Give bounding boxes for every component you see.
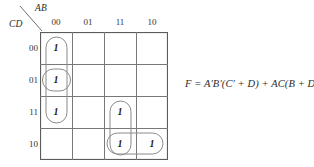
cell-value: 1: [136, 128, 168, 160]
column-header-row: 00 01 11 10: [40, 17, 168, 31]
side-variable-label: CD: [9, 19, 23, 29]
column-header-3: 10: [136, 17, 168, 27]
row-header-0: 00: [14, 32, 38, 64]
row-header-column: 00 01 11 10: [14, 32, 38, 160]
row-header-2: 11: [14, 96, 38, 128]
karnaugh-map-figure: AB CD 00 01 11 10 00 01 11 10 1 1 1 1 1 …: [0, 0, 314, 167]
column-header-1: 01: [72, 17, 104, 27]
column-header-2: 11: [104, 17, 136, 27]
row-header-3: 10: [14, 128, 38, 160]
cell-value: 1: [104, 96, 136, 128]
cell-value: 1: [104, 128, 136, 160]
cell-value: 1: [40, 64, 72, 96]
boolean-expression: F = A′B′(C′ + D) + AC(B + D′): [185, 78, 314, 89]
column-header-0: 00: [40, 17, 72, 27]
cell-value: 1: [40, 32, 72, 64]
kmap-grid: 1 1 1 1 1 1: [40, 32, 168, 160]
row-header-1: 01: [14, 64, 38, 96]
top-variable-label: AB: [35, 3, 47, 13]
cell-value: 1: [40, 96, 72, 128]
